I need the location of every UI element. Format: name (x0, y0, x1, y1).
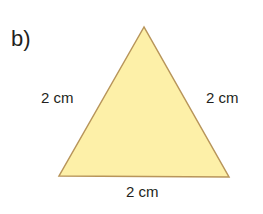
side-label-left: 2 cm (41, 90, 74, 105)
equilateral-triangle (59, 27, 229, 177)
side-label-right: 2 cm (206, 90, 239, 105)
side-label-bottom: 2 cm (126, 184, 159, 199)
triangle-figure (0, 0, 263, 214)
